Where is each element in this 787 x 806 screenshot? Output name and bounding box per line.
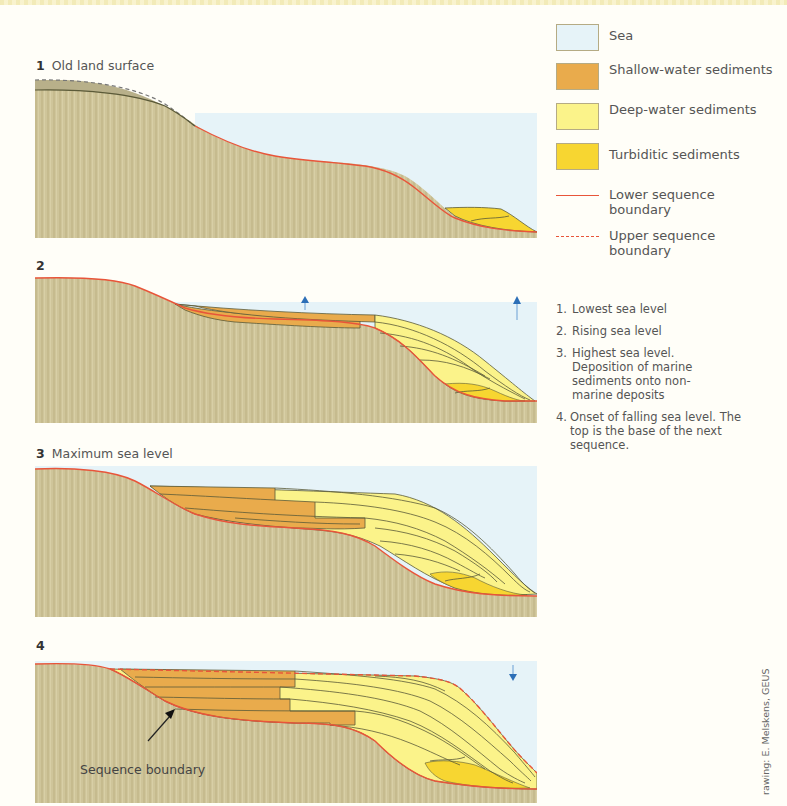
shallow-water-swatch — [556, 63, 599, 90]
sea-swatch — [556, 24, 599, 51]
panel-3-diagram — [35, 466, 537, 617]
legend-item-lower-boundary: Lower sequence boundary — [556, 188, 779, 217]
panel-1-title: Old land surface — [52, 58, 154, 73]
panel-3-title: Maximum sea level — [52, 446, 173, 461]
note-4: 4.Onset of falling sea level. The top is… — [556, 410, 746, 452]
deep-water-swatch — [556, 103, 599, 130]
panel-1-diagram — [35, 76, 537, 238]
dashed-line-icon — [556, 229, 599, 243]
stage-notes: 1.Lowest sea level 2.Rising sea level 3.… — [556, 302, 781, 460]
note-1: 1.Lowest sea level — [556, 302, 781, 316]
panel-3-label: 3Maximum sea level — [36, 446, 173, 461]
turbiditic-swatch — [556, 143, 599, 170]
panel-1-label: 1Old land surface — [36, 58, 154, 73]
legend-item-turbiditic: Turbiditic sediments — [556, 143, 779, 170]
note-2: 2.Rising sea level — [556, 324, 781, 338]
legend-item-deep-water: Deep-water sediments — [556, 103, 779, 130]
sequence-boundary-callout: Sequence boundary — [80, 762, 205, 777]
panel-2-label: 2 — [36, 258, 52, 273]
drawing-credit: rawing: E. Melskens, GEUS — [760, 669, 771, 795]
panel-4-diagram — [35, 661, 537, 803]
note-3: 3.Highest sea level. Deposition of marin… — [556, 346, 716, 402]
panel-2-diagram — [35, 276, 537, 423]
solid-line-icon — [556, 188, 599, 202]
panel-4-label: 4 — [36, 638, 52, 653]
legend-item-upper-boundary: Upper sequence boundary — [556, 229, 779, 258]
legend-item-sea: Sea — [556, 24, 779, 51]
top-decorative-band — [0, 0, 787, 5]
legend-item-shallow-water: Shallow-water sediments — [556, 63, 779, 90]
